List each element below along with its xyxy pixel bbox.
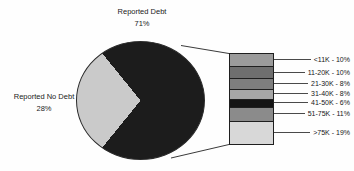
tick-row-under-11k: <11K - 10% xyxy=(274,54,350,64)
leader-line xyxy=(274,132,310,133)
leader-line xyxy=(274,59,311,60)
tick-label: <11K - 10% xyxy=(314,56,350,63)
tick-label: 41-50K - 6% xyxy=(311,99,350,106)
bar-segment-under-11k xyxy=(230,54,273,67)
tick-row-51-75k: 51-75K - 11% xyxy=(274,109,350,119)
slice-percent: 71% xyxy=(86,18,198,30)
bar-segment-over-75k xyxy=(230,122,273,144)
leader-line xyxy=(274,93,308,94)
bar-segment-11-20k xyxy=(230,67,273,80)
breakout-stacked-bar xyxy=(229,53,274,145)
leader-line xyxy=(274,102,308,103)
leader-line xyxy=(274,83,308,84)
tick-label: 21-30K - 8% xyxy=(311,80,350,87)
bar-segment-31-40k xyxy=(230,90,273,100)
bar-segment-21-30k xyxy=(230,79,273,89)
pie-chart xyxy=(76,41,205,160)
slice-label: Reported No Debt xyxy=(0,91,88,103)
tick-label: 31-40K - 8% xyxy=(311,90,350,97)
tick-label: 11-20K - 10% xyxy=(308,69,350,76)
slice-caption-reported-debt: Reported Debt 71% xyxy=(86,6,198,30)
tick-label: 51-75K - 11% xyxy=(308,110,350,117)
leader-line xyxy=(274,113,305,114)
bar-segment-41-50k xyxy=(230,100,273,108)
tick-row-41-50k: 41-50K - 6% xyxy=(274,98,350,108)
slice-percent: 28% xyxy=(0,103,88,115)
tick-row-21-30k: 21-30K - 8% xyxy=(274,79,350,89)
slice-caption-reported-no-debt: Reported No Debt 28% xyxy=(0,91,88,115)
bar-segment-51-75k xyxy=(230,108,273,122)
leader-line xyxy=(274,72,305,73)
tick-row-over-75k: >75K - 19% xyxy=(274,128,350,138)
slice-label: Reported Debt xyxy=(86,6,198,18)
tick-row-11-20k: 11-20K - 10% xyxy=(274,67,350,77)
tick-label: >75K - 19% xyxy=(313,129,350,136)
pie-breakout-chart: Reported Debt 71% Reported No Debt 28% <… xyxy=(0,0,354,171)
